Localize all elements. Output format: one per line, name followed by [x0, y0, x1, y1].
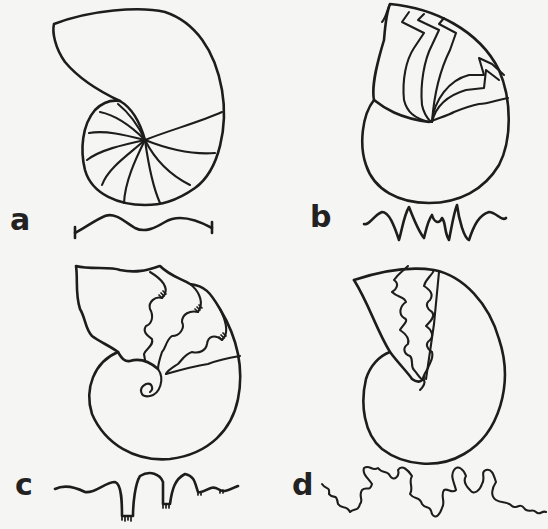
panel-a: a — [0, 0, 274, 264]
suture-diagram: a b — [0, 0, 548, 529]
suture-line-a — [0, 0, 274, 264]
suture-line-d — [274, 264, 548, 529]
panel-d: d — [274, 264, 548, 529]
suture-line-c — [0, 264, 274, 529]
suture-line-b — [274, 0, 548, 264]
panel-b: b — [274, 0, 548, 264]
panel-c: c — [0, 264, 274, 529]
